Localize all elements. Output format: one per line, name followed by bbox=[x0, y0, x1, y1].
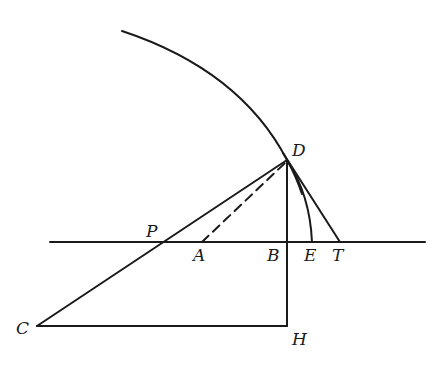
label-H: H bbox=[291, 329, 308, 349]
small-arc bbox=[287, 160, 312, 242]
label-C: C bbox=[16, 318, 29, 338]
label-E: E bbox=[303, 245, 317, 265]
label-A: A bbox=[191, 245, 205, 265]
large-arc bbox=[122, 31, 287, 160]
label-P: P bbox=[145, 221, 158, 241]
label-T: T bbox=[332, 245, 345, 265]
dashed-line-AD bbox=[202, 163, 285, 242]
label-B: B bbox=[266, 245, 280, 265]
label-D: D bbox=[291, 140, 306, 160]
geometry-diagram: D P A B E T C H bbox=[0, 0, 446, 380]
